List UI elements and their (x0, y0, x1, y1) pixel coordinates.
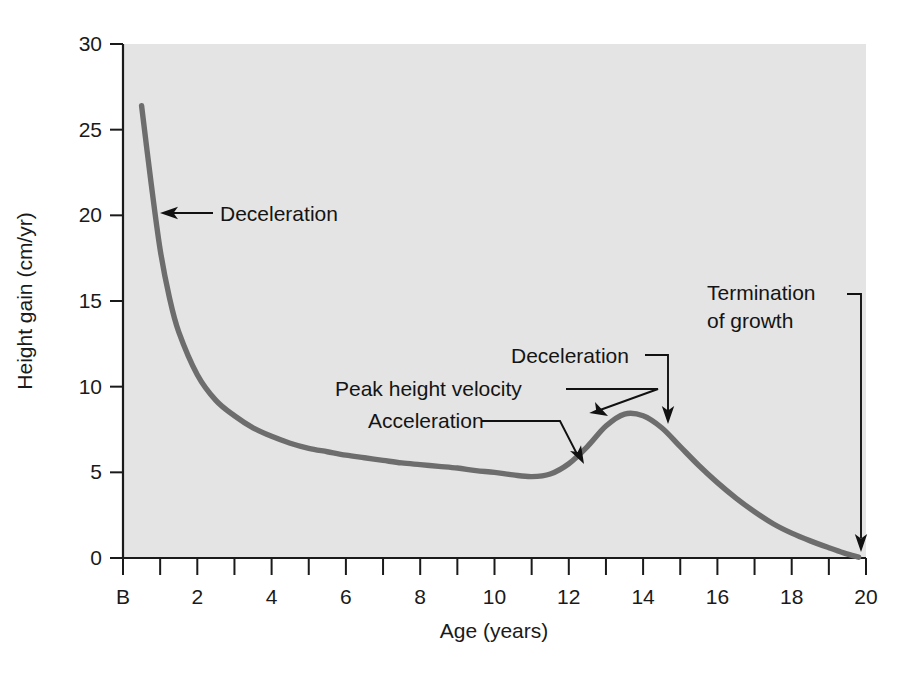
annotation-label-deceleration-adolescence: Deceleration (511, 344, 629, 367)
x-tick-label: 16 (706, 585, 729, 608)
x-tick-label: 6 (340, 585, 352, 608)
annotation-label-deceleration-infancy: Deceleration (220, 202, 338, 225)
x-tick-label: 2 (191, 585, 203, 608)
x-tick-label: B (116, 585, 130, 608)
x-tick-label: 14 (631, 585, 655, 608)
x-tick-label: 8 (414, 585, 426, 608)
y-tick-label: 10 (79, 375, 102, 398)
annotation-label-peak-height-velocity: Peak height velocity (335, 377, 522, 400)
growth-velocity-chart-root: 051015202530 B2468101214161820 Decelerat… (0, 0, 907, 681)
y-tick-label: 20 (79, 203, 102, 226)
annotation-label-termination-of-growth-line2: of growth (707, 309, 793, 332)
x-tick-label: 4 (266, 585, 278, 608)
x-axis-tick-labels: B2468101214161820 (116, 585, 878, 608)
annotation-label-termination-of-growth-line1: Termination (707, 281, 816, 304)
x-tick-label: 10 (483, 585, 506, 608)
y-axis-ticks (110, 44, 123, 558)
growth-velocity-chart: 051015202530 B2468101214161820 Decelerat… (0, 0, 907, 681)
y-axis-tick-labels: 051015202530 (79, 32, 102, 569)
x-tick-label: 18 (780, 585, 803, 608)
y-tick-label: 30 (79, 32, 102, 55)
annotation-label-acceleration: Acceleration (368, 409, 484, 432)
x-tick-label: 12 (557, 585, 580, 608)
y-tick-label: 15 (79, 289, 102, 312)
y-tick-label: 5 (90, 460, 102, 483)
y-tick-label: 0 (90, 546, 102, 569)
x-axis-title: Age (years) (440, 619, 549, 642)
y-tick-label: 25 (79, 118, 102, 141)
x-tick-label: 20 (854, 585, 877, 608)
y-axis-title: Height gain (cm/yr) (13, 212, 36, 389)
